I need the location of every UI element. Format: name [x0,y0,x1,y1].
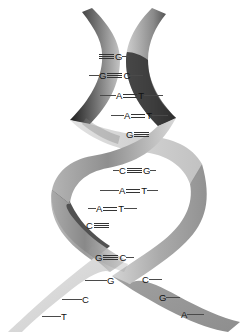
base-pair-4-double-bond-icon [131,113,145,119]
unpaired-base-label: C [82,295,89,305]
base-pair-3-right-tick [144,95,163,96]
base-pair-7: AT [100,186,158,196]
base-pair-8-left-tick [88,208,96,209]
base-pair-9: C [86,221,110,231]
base-pair-5: G [126,130,150,140]
unpaired-base-tick [187,314,204,315]
base-pair-6-triple-bond-icon [127,167,142,174]
base-pair-8: AT [88,204,137,214]
unpaired-base-label: G [107,276,114,286]
base-pair-2-left-base: G [99,71,106,81]
unpaired-base-tick [166,297,180,298]
base-pair-3: AT [100,91,163,101]
base-pair-9-triple-bond-icon [94,222,109,229]
base-pair-1-triple-bond-icon [99,53,114,60]
base-pair-7-left-tick [100,190,119,191]
base-pair-4: AT [111,111,168,121]
base-pair-1: G [98,52,129,62]
base-pair-2-left-tick [89,75,99,76]
base-pair-2: GC [89,71,143,81]
base-pair-6: CG [113,166,156,176]
unpaired-base-tick [149,279,162,280]
base-pair-3-left-base: A [116,91,122,101]
base-pair-7-left-base: A [119,186,125,196]
base-pair-9-left-base: C [86,221,93,231]
base-pair-10-right-tick [126,257,134,258]
unpaired-base-left-3: T [42,312,67,322]
base-pair-2-triple-bond-icon [107,72,122,79]
base-pair-8-double-bond-icon [103,206,117,212]
unpaired-base-tick [42,316,61,317]
base-pair-8-right-tick [124,208,137,209]
base-pair-5-triple-bond-icon [134,131,149,138]
unpaired-base-tick [85,280,107,281]
base-pair-6-right-base: G [143,166,150,176]
unpaired-base-tick [62,299,82,300]
base-pair-8-left-base: A [96,204,102,214]
base-pair-10-triple-bond-icon [103,254,118,261]
base-pair-3-double-bond-icon [123,93,137,99]
unpaired-base-label: T [61,312,67,322]
base-pair-6-right-tick [150,170,156,171]
unpaired-base-left-1: G [85,276,114,286]
base-pair-7-double-bond-icon [126,188,140,194]
base-pair-2-right-tick [130,75,143,76]
base-pair-4-left-base: A [124,111,130,121]
base-pair-6-left-base: C [119,166,126,176]
base-pair-2-right-base: C [123,71,130,81]
base-pair-1-right-tick [122,56,129,57]
base-pair-4-left-tick [111,115,124,116]
base-pair-7-right-tick [147,190,158,191]
unpaired-base-right-2: G [159,293,180,303]
base-pair-10-right-base: C [119,253,126,263]
unpaired-base-label: G [159,293,166,303]
unpaired-base-left-2: C [62,295,89,305]
unpaired-base-right-1: C [142,275,162,285]
base-pair-5-left-base: G [126,130,133,140]
dna-double-helix-figure: GGCATATGCGATATCGC GCTCGA [0,0,251,332]
base-pair-10: GC [95,253,134,263]
unpaired-base-label: C [142,275,149,285]
base-pair-3-left-tick [100,95,116,96]
base-pair-4-right-tick [152,115,168,116]
base-pair-10-left-base: G [95,253,102,263]
base-pair-1-right-base: G [115,52,122,62]
unpaired-base-right-3: A [181,310,204,320]
